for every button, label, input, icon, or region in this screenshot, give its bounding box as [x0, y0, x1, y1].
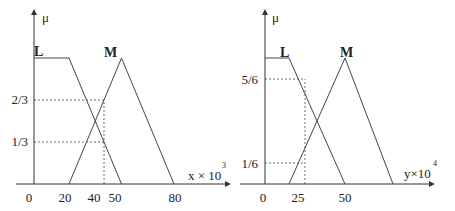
- membership-curve-L: [265, 58, 345, 184]
- y-axis-label-left: μ: [42, 10, 49, 25]
- y-axis-label-right: μ: [272, 10, 279, 25]
- x-axis-label-right: y×10: [404, 166, 431, 181]
- membership-curve-M: [289, 58, 393, 184]
- membership-curve-M: [69, 58, 174, 184]
- series-label-M-left: M: [104, 45, 117, 60]
- xtick-label: 40: [88, 190, 101, 205]
- chart-left: μ 0 20 40 50 80 1/3 2/3 x × 10 3 L M: [11, 10, 228, 205]
- membership-curve-L: [34, 58, 122, 184]
- chart-right: μ 0 25 50 1/6 5/6 y×10 4 L M: [240, 10, 437, 205]
- fuzzy-membership-figure: μ 0 20 40 50 80 1/3 2/3 x × 10 3 L M μ 0…: [0, 0, 455, 211]
- series-label-L-left: L: [34, 44, 43, 59]
- xtick-label: 25: [292, 190, 305, 205]
- xtick-label: 20: [59, 190, 72, 205]
- ytick-label: 1/3: [11, 134, 28, 149]
- ytick-label: 1/6: [241, 156, 258, 171]
- xtick-label: 0: [26, 190, 33, 205]
- series-label-M-right: M: [340, 45, 353, 60]
- series-label-L-right: L: [280, 45, 289, 60]
- ytick-label: 5/6: [241, 72, 258, 87]
- x-axis-label-left: x × 10: [188, 168, 221, 183]
- x-axis-exponent-right: 4: [433, 159, 437, 168]
- xtick-label: 50: [109, 190, 122, 205]
- xtick-label: 80: [169, 190, 182, 205]
- x-axis-exponent-left: 3: [222, 161, 226, 170]
- xtick-label: 0: [260, 190, 267, 205]
- ytick-label: 2/3: [11, 92, 28, 107]
- xtick-label: 50: [339, 190, 352, 205]
